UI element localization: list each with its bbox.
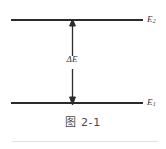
- energy-level-label-lower: E1: [147, 98, 156, 107]
- energy-level-label-upper: E2: [147, 15, 156, 24]
- energy-level-diagram: E2 ΔE E1 图 2-1: [0, 0, 166, 149]
- bottom-divider: [12, 141, 158, 142]
- figure-caption: 图 2-1: [0, 117, 166, 128]
- energy-level-label-lower-subscript: 1: [153, 101, 156, 107]
- energy-level-label-lower-base: E: [147, 97, 153, 107]
- energy-level-label-upper-base: E: [147, 14, 153, 24]
- energy-level-label-upper-subscript: 2: [153, 18, 156, 24]
- transition-energy-label: ΔE: [57, 55, 87, 64]
- energy-level-line-lower: [11, 102, 143, 104]
